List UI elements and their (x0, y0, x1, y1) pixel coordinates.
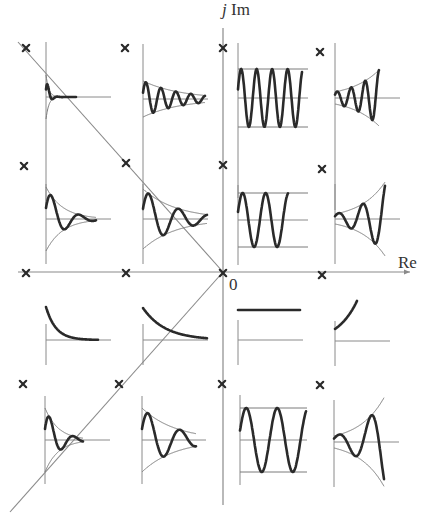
damping-line-upper (18, 42, 223, 272)
envelope-lower (143, 223, 207, 249)
response-curve (142, 413, 196, 457)
envelope-lower (46, 97, 76, 119)
pole-x-icon (319, 166, 325, 172)
response-row1-col3 (238, 43, 308, 198)
response-row3-col2 (143, 308, 208, 365)
pole-x-icon (123, 160, 129, 166)
response-row3-col3 (238, 310, 303, 365)
origin-label: 0 (229, 275, 238, 295)
response-curve (143, 82, 205, 112)
pole-x-icon (219, 381, 225, 387)
envelope-upper (142, 408, 196, 434)
real-axis-label: Re (398, 253, 417, 273)
response-row3-col4 (335, 301, 390, 366)
response-row3-col1 (46, 307, 111, 365)
imaginary-axis-label: j Im (222, 0, 250, 20)
s-plane-canvas (0, 0, 425, 520)
response-row1-col4 (335, 43, 400, 210)
response-curve (143, 194, 207, 236)
pole-x-icon (20, 381, 26, 387)
response-row1-col1 (46, 42, 111, 207)
complex-plane-axes (18, 28, 410, 505)
imaginary-axis-im: Im (231, 0, 250, 19)
damping-line-lower (10, 272, 223, 512)
response-row2-col4 (335, 182, 400, 264)
pole-x-icon (123, 270, 129, 276)
response-curve (334, 415, 384, 479)
response-row1-col2 (143, 44, 208, 211)
response-row4-col2 (142, 396, 206, 484)
pole-x-icon (317, 382, 323, 388)
response-curve (143, 308, 207, 338)
response-curve (45, 417, 83, 450)
pole-x-icon (116, 381, 122, 387)
pole-x-icon (21, 163, 27, 169)
response-curve (335, 186, 385, 244)
damping-guide-lines (10, 42, 223, 512)
response-curve (335, 301, 357, 329)
pole-x-icon (122, 45, 128, 51)
response-curve (46, 307, 98, 340)
response-row4-col1 (45, 396, 110, 484)
response-row2-col3 (238, 185, 308, 265)
pole-x-icon (317, 49, 323, 55)
pole-x-icon (319, 272, 325, 278)
response-row4-col4 (334, 398, 399, 487)
envelope-upper (335, 70, 379, 92)
s-plane-diagram: j Im Re 0 (0, 0, 425, 520)
response-row2-col2 (143, 184, 208, 264)
envelope-lower (46, 221, 96, 251)
response-curve (46, 84, 76, 99)
response-row2-col1 (46, 184, 111, 264)
imaginary-unit-j: j (222, 0, 227, 19)
response-curve (335, 70, 379, 120)
pole-x-icon (23, 270, 29, 276)
response-row4-col3 (240, 395, 307, 485)
